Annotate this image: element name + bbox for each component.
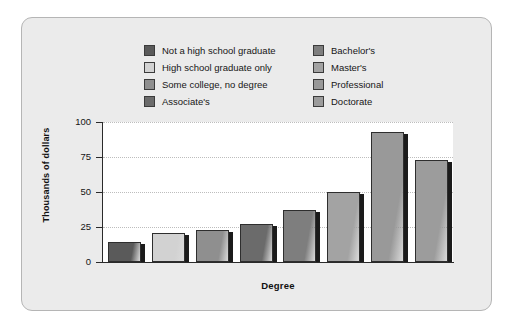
y-tick-label-wrap: 0 — [63, 257, 91, 267]
y-axis-title: Thousands of dollars — [41, 110, 51, 240]
y-tick-label-wrap: 50 — [63, 187, 91, 197]
y-tick-label-wrap: 25 — [63, 222, 91, 232]
bar[interactable] — [415, 160, 448, 262]
bar[interactable] — [196, 230, 229, 262]
bar[interactable] — [108, 242, 141, 262]
y-axis-line — [102, 122, 103, 263]
y-tick-mark — [96, 157, 102, 158]
bar[interactable] — [371, 132, 404, 262]
y-tick-mark — [96, 227, 102, 228]
y-tick-mark — [96, 122, 102, 123]
y-tick-label-wrap: 100 — [63, 117, 91, 127]
y-tick-mark — [96, 192, 102, 193]
y-tick-label: 0 — [63, 257, 91, 267]
bar[interactable] — [240, 224, 273, 262]
bar[interactable] — [283, 210, 316, 262]
gridline — [103, 122, 453, 123]
y-tick-label: 25 — [63, 222, 91, 232]
y-tick-label: 50 — [63, 187, 91, 197]
chart-plot-wrapper: Thousands of dollars 0255075100 Degree — [22, 18, 493, 312]
plot-area — [103, 122, 453, 262]
y-tick-label: 75 — [63, 152, 91, 162]
chart-figure-frame: Not a high school graduateHigh school gr… — [21, 17, 492, 311]
y-tick-label: 100 — [63, 117, 91, 127]
x-axis-line — [102, 262, 454, 263]
x-axis-title: Degree — [103, 280, 453, 291]
bar[interactable] — [327, 192, 360, 262]
y-tick-mark — [96, 262, 102, 263]
y-tick-label-wrap: 75 — [63, 152, 91, 162]
bar[interactable] — [152, 233, 185, 262]
